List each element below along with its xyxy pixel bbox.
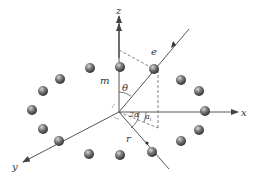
ball [149,64,159,74]
radius-label: r [126,133,132,144]
ball [176,136,186,146]
ball [38,86,48,96]
ball [38,124,48,134]
alpha-i-label: ai [145,112,152,122]
ball [27,105,37,115]
theta-label: θ [122,82,128,93]
ball [176,75,186,85]
ball [194,86,204,96]
origin-arc-down [114,117,119,119]
ball [55,74,65,84]
electron-label: e [151,46,157,57]
y-axis-label: y [11,161,18,172]
alpha-i-subscript: i [150,116,152,122]
two-alpha-label: 2α [128,110,140,119]
ball [115,62,125,72]
x-axis-label: x [241,107,247,118]
coordinate-diagram: z x y m e θ 2α ai r [0,0,255,179]
ball [200,106,210,116]
ball [194,125,204,135]
ball [54,136,64,146]
y-axis [23,112,119,162]
mass-label: m [100,75,109,86]
z-axis-label: z [115,5,122,16]
ball [115,150,125,160]
r-marker-dot [145,141,148,144]
origin-arc-left [112,104,115,108]
ball [85,63,95,73]
ball [147,147,157,157]
ball [84,149,94,159]
